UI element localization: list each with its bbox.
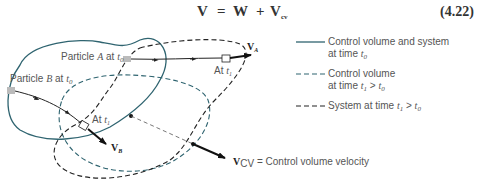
label-va: VA (247, 41, 258, 53)
particle-a-t0 (123, 56, 131, 62)
velocity-a-arrow (230, 55, 251, 58)
cv-displacement-line (131, 116, 193, 144)
label-at-t1-a: At t1 (214, 65, 232, 77)
legend: Control volume and system at time t0 Con… (296, 36, 449, 113)
label-particle-b: Particle B at t0 (10, 73, 73, 86)
equation: V = W + V cv (4.22) (197, 3, 474, 21)
eq-w: W (233, 3, 248, 19)
eq-equals: = (217, 3, 226, 19)
eq-v: V (197, 3, 208, 19)
label-vcv: VCV = Control volume velocity (233, 156, 369, 169)
label-at-t1-b: At t1 (92, 114, 110, 126)
equation-number: (4.22) (440, 4, 474, 20)
eq-plus: + (256, 3, 265, 19)
label-vb: VB (111, 142, 122, 154)
legend-item-1-line2: at time t0 (328, 48, 368, 61)
velocity-b-arrow (88, 129, 106, 144)
legend-item-2-line1: Control volume (328, 68, 396, 79)
legend-item-2-line2: at time t1 > t0 (328, 80, 385, 93)
eq-vcv: V (270, 3, 281, 19)
velocity-cv-arrow (193, 144, 225, 158)
particle-a-t1 (222, 55, 230, 62)
particle-a-path (131, 58, 222, 59)
legend-item-3: System at time t1 > t0 (328, 100, 421, 113)
label-particle-a: Particle A at t0 (61, 51, 124, 64)
particle-b-path (15, 91, 82, 124)
legend-item-1-line1: Control volume and system (328, 36, 449, 47)
particle-b-t0 (7, 87, 15, 94)
diagram: V = W + V cv (4.22) Particle A at t0 Par… (0, 0, 478, 184)
eq-vcv-sub: cv (281, 13, 288, 21)
